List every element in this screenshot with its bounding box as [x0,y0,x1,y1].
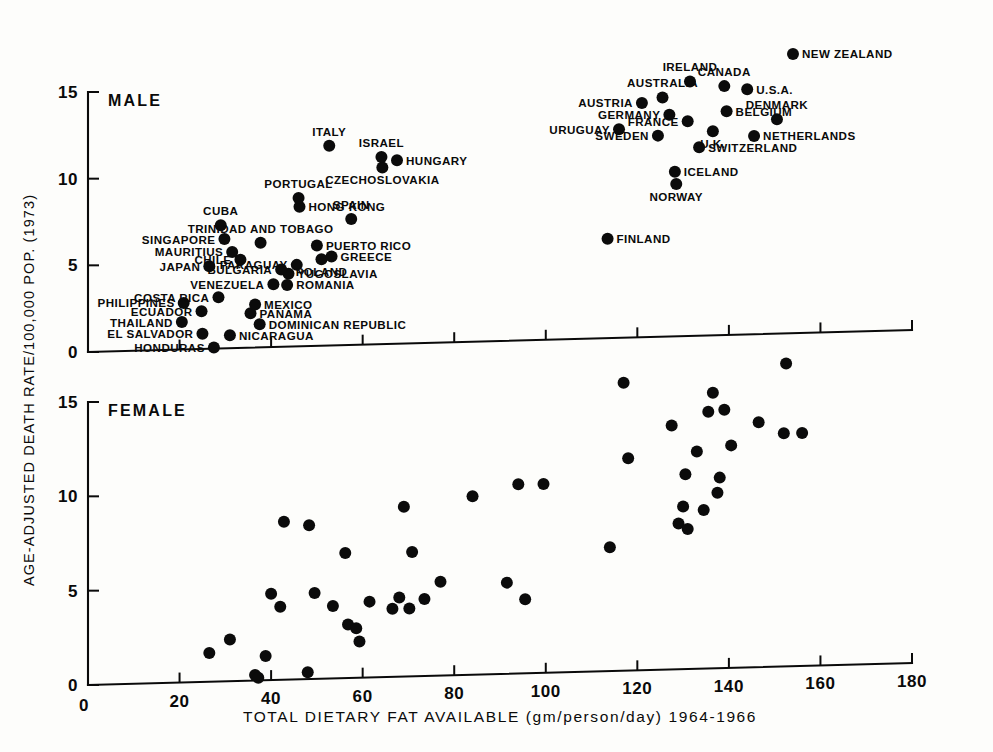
point-label: CUBA [203,204,238,217]
data-point[interactable] [315,253,327,265]
data-point[interactable] [679,468,691,480]
point-label: EL SALVADOR [107,327,193,340]
data-point[interactable] [669,166,681,178]
data-point[interactable] [691,446,703,458]
data-point[interactable] [707,387,719,399]
data-point[interactable] [364,596,376,608]
point-label: IRELAND [663,60,718,73]
scatter-figure: 051015MALEHONDURASEL SALVADORNICARAGUATH… [0,0,993,752]
data-point[interactable] [652,130,664,142]
data-point[interactable] [224,329,236,341]
point-label: CZECHOSLOVAKIA [325,173,439,186]
data-point[interactable] [339,547,351,559]
y-tick-label-female-15: 15 [58,393,78,412]
point-label: U.K. [700,137,725,150]
data-point[interactable] [255,237,267,249]
data-point[interactable] [618,377,630,389]
data-point[interactable] [327,600,339,612]
data-point[interactable] [707,125,719,137]
data-point[interactable] [274,601,286,613]
data-point[interactable] [796,427,808,439]
data-point[interactable] [323,140,335,152]
data-point[interactable] [326,251,338,263]
point-label: PUERTO RICO [326,239,411,252]
data-point[interactable] [512,478,524,490]
data-point[interactable] [714,472,726,484]
data-point[interactable] [787,48,799,60]
data-point[interactable] [636,97,648,109]
data-point[interactable] [418,593,430,605]
point-label: ICELAND [684,165,739,178]
data-point[interactable] [267,278,279,290]
data-point[interactable] [353,635,365,647]
data-point[interactable] [753,416,765,428]
data-point[interactable] [196,328,208,340]
data-point[interactable] [670,178,682,190]
data-point[interactable] [303,519,315,531]
y-tick-label-male-10: 10 [58,170,78,189]
data-point[interactable] [281,279,293,291]
data-point[interactable] [657,91,669,103]
data-point[interactable] [711,487,723,499]
data-point[interactable] [293,192,305,204]
data-point[interactable] [311,240,323,252]
data-point[interactable] [718,80,730,92]
point-label: ITALY [312,125,346,138]
data-point[interactable] [434,576,446,588]
data-point[interactable] [467,490,479,502]
data-point[interactable] [677,500,689,512]
data-point[interactable] [721,105,733,117]
data-point[interactable] [398,501,410,513]
data-point[interactable] [537,478,549,490]
data-point[interactable] [501,577,513,589]
data-point[interactable] [725,439,737,451]
data-point[interactable] [375,151,387,163]
data-point[interactable] [386,603,398,615]
y-tick-label-male-0: 0 [68,343,78,362]
data-point[interactable] [376,161,388,173]
data-point[interactable] [345,213,357,225]
point-label: BELGIUM [736,105,793,118]
data-point[interactable] [519,593,531,605]
x-tick-label-60: 60 [353,687,373,706]
x-tick-label-160: 160 [805,674,835,693]
data-point[interactable] [203,647,215,659]
data-point[interactable] [602,233,614,245]
x-tick-label-120: 120 [622,679,652,698]
data-point[interactable] [698,504,710,516]
x-tick-label-100: 100 [531,682,561,701]
data-point[interactable] [406,546,418,558]
data-point[interactable] [778,427,790,439]
data-point[interactable] [702,406,714,418]
data-point[interactable] [208,342,220,354]
point-label: POLAND [296,265,348,278]
data-point[interactable] [682,115,694,127]
data-point[interactable] [741,83,753,95]
data-point[interactable] [224,634,236,646]
panel-title-female: FEMALE [108,402,187,419]
data-point[interactable] [393,591,405,603]
data-point[interactable] [604,541,616,553]
y-tick-label-female-10: 10 [58,487,78,506]
data-point[interactable] [718,404,730,416]
panel-female [88,357,912,685]
data-point[interactable] [403,603,415,615]
data-point[interactable] [350,622,362,634]
data-point[interactable] [212,291,224,303]
data-point[interactable] [682,523,694,535]
data-point[interactable] [278,516,290,528]
data-point[interactable] [391,154,403,166]
point-label: PARAGUAY [220,258,288,271]
data-point[interactable] [622,452,634,464]
point-label: MAURITIUS [155,245,223,258]
data-point[interactable] [309,587,321,599]
data-point[interactable] [780,357,792,369]
data-point[interactable] [265,588,277,600]
data-point[interactable] [302,666,314,678]
point-label: AUSTRALIA [627,76,698,89]
data-point[interactable] [666,420,678,432]
data-point[interactable] [196,305,208,317]
x-tick-label-0: 0 [79,696,89,715]
data-point[interactable] [252,672,264,684]
data-point[interactable] [260,650,272,662]
